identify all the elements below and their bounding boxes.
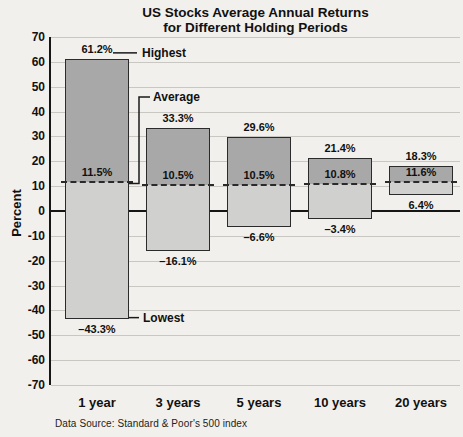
data-source-note: Data Source: Standard & Poor's 500 index <box>55 418 247 429</box>
y-tick-label: -30 <box>15 279 45 293</box>
y-gridline <box>51 335 460 336</box>
bar-segment-above-average <box>65 59 129 183</box>
highest-value-label: 18.3% <box>405 150 436 162</box>
average-value-label: 11.5% <box>82 166 113 178</box>
y-tick-label: -70 <box>15 378 45 392</box>
bar-segment-below-average <box>227 185 291 228</box>
bar-segment-below-average <box>65 182 129 318</box>
average-dashed-line <box>223 184 295 186</box>
y-tick-label: 0 <box>15 204 45 218</box>
x-axis-category-label: 1 year <box>78 395 116 410</box>
bar-segment-below-average <box>146 185 210 251</box>
chart-title-line1: US Stocks Average Annual Returns <box>51 5 460 20</box>
highest-value-label: 61.2% <box>81 43 112 55</box>
average-value-label: 10.5% <box>162 169 193 181</box>
average-dashed-line <box>304 183 376 185</box>
lowest-value-label: 6.4% <box>408 199 433 211</box>
chart-title-line2: for Different Holding Periods <box>51 20 460 35</box>
y-axis-line <box>49 37 51 385</box>
y-gridline <box>51 37 460 38</box>
average-value-label: 10.8% <box>324 168 355 180</box>
average-callout-label: Average <box>153 90 200 104</box>
average-dashed-line <box>61 181 133 183</box>
highest-value-label: 29.6% <box>243 121 274 133</box>
x-axis-category-label: 5 years <box>237 395 282 410</box>
y-gridline <box>51 385 460 386</box>
y-tick-label: 10 <box>15 179 45 193</box>
highest-value-label: 21.4% <box>324 142 355 154</box>
average-dashed-line <box>142 184 214 186</box>
lowest-callout-label: Lowest <box>143 311 184 325</box>
lowest-value-label: –3.4% <box>324 223 355 235</box>
lowest-value-label: –16.1% <box>159 255 196 267</box>
x-axis-category-label: 10 years <box>314 395 366 410</box>
y-tick-label: 50 <box>15 80 45 94</box>
highest-value-label: 33.3% <box>162 112 193 124</box>
bar-segment-below-average <box>308 184 372 219</box>
chart-figure: US Stocks Average Annual Returns for Dif… <box>0 0 463 437</box>
bar-segment-below-average <box>389 182 453 195</box>
y-tick-label: 70 <box>15 30 45 44</box>
x-axis-category-label: 3 years <box>156 395 201 410</box>
x-axis-category-label: 20 years <box>395 395 447 410</box>
y-tick-label: -50 <box>15 328 45 342</box>
average-value-label: 10.5% <box>243 169 274 181</box>
y-tick-label: 60 <box>15 55 45 69</box>
y-tick-label: -40 <box>15 303 45 317</box>
highest-callout-label: Highest <box>142 46 186 60</box>
y-tick-label: -10 <box>15 229 45 243</box>
y-tick-label: 30 <box>15 129 45 143</box>
y-tick-label: 40 <box>15 105 45 119</box>
y-gridline <box>51 360 460 361</box>
average-dashed-line <box>385 181 457 183</box>
y-tick-label: 20 <box>15 154 45 168</box>
lowest-value-label: –6.6% <box>243 231 274 243</box>
chart-title: US Stocks Average Annual Returns for Dif… <box>51 5 460 35</box>
lowest-value-label: –43.3% <box>78 323 115 335</box>
average-value-label: 11.6% <box>406 166 437 178</box>
y-tick-label: -20 <box>15 254 45 268</box>
y-tick-label: -60 <box>15 353 45 367</box>
